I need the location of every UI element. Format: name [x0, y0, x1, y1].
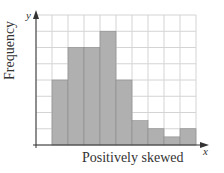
histogram-bar	[68, 48, 84, 146]
histogram-bar	[132, 121, 148, 145]
bars	[52, 31, 196, 145]
histogram-bar	[180, 129, 196, 145]
histogram-bar	[100, 31, 116, 145]
histogram-bar	[116, 80, 132, 145]
y-axis-letter: y	[26, 9, 31, 21]
x-axis-label: Positively skewed	[82, 150, 184, 166]
histogram-chart	[0, 0, 224, 173]
histogram-bar	[52, 80, 68, 145]
histogram-bar	[164, 137, 180, 145]
histogram-bar	[148, 129, 164, 145]
y-axis-label: Frequency	[2, 21, 18, 80]
x-axis-letter: x	[203, 145, 208, 157]
histogram-bar	[84, 48, 100, 146]
